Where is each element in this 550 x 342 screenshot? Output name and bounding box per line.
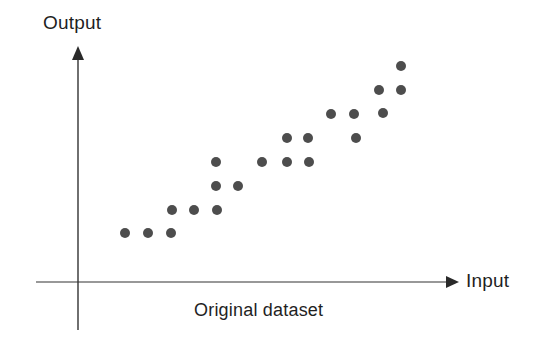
data-point [282, 157, 292, 167]
data-point [349, 109, 359, 119]
data-point [396, 85, 406, 95]
data-point [166, 228, 176, 238]
figure-caption: Original dataset [194, 300, 323, 321]
data-point [257, 157, 267, 167]
y-axis-arrowhead-icon [72, 46, 84, 60]
data-point [189, 205, 199, 215]
data-point [167, 205, 177, 215]
data-point [120, 228, 130, 238]
data-point [212, 205, 222, 215]
data-point [374, 85, 384, 95]
data-point-group [120, 61, 406, 238]
data-point [326, 109, 336, 119]
data-point [304, 157, 314, 167]
x-axis-label: Input [466, 270, 509, 292]
data-point [396, 61, 406, 71]
data-point [351, 133, 361, 143]
x-axis-arrowhead-icon [446, 276, 459, 288]
data-point [282, 133, 292, 143]
data-point [211, 181, 221, 191]
data-point [378, 108, 388, 118]
data-point [143, 228, 153, 238]
data-point [303, 133, 313, 143]
data-point [211, 157, 221, 167]
data-point [233, 181, 243, 191]
y-axis-label: Output [43, 12, 101, 34]
scatter-plot-figure: Output Input Original dataset [0, 0, 550, 342]
